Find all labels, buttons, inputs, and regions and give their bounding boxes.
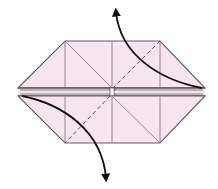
origami-diagram: [0, 0, 218, 189]
diagram-canvas: [0, 0, 218, 189]
